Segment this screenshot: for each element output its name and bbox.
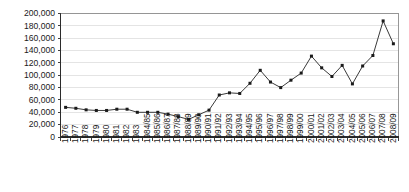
x-tick-label: 2000/01: [307, 113, 316, 143]
data-point-marker: [361, 64, 364, 67]
data-point-marker: [382, 19, 385, 22]
x-axis-group: 197619771978197919801981198219831984/851…: [61, 113, 399, 143]
data-point-marker: [228, 91, 231, 94]
data-point-marker: [167, 113, 170, 116]
x-tick-label: 1986/87: [163, 113, 172, 143]
data-point-marker: [95, 109, 98, 112]
x-tick-label: 1992/93: [225, 113, 234, 143]
data-point-marker: [136, 111, 139, 114]
data-point-marker: [64, 106, 67, 109]
x-tick-label: 2006/07: [368, 113, 377, 143]
x-tick-label: 1994/95: [245, 113, 254, 143]
x-tick-label: 1995/96: [255, 113, 264, 143]
x-tick-label: 1984/85: [143, 113, 152, 143]
data-point-marker: [330, 75, 333, 78]
x-tick-label: 1981: [112, 124, 121, 143]
data-point-marker: [300, 72, 303, 75]
data-point-marker: [105, 109, 108, 112]
x-tick-label: 1976: [61, 124, 70, 143]
y-tick-label: 80,000: [29, 82, 56, 92]
x-tick-label: 1983: [132, 124, 141, 143]
x-tick-label: 2004/05: [348, 113, 357, 143]
x-tick-label: 2001/02: [317, 113, 326, 143]
data-point-marker: [218, 94, 221, 97]
data-point-marker: [115, 108, 118, 111]
data-point-marker: [156, 111, 159, 114]
data-point-marker: [392, 42, 395, 45]
data-point-marker: [74, 107, 77, 110]
data-point-marker: [146, 111, 149, 114]
y-tick-label: 0: [50, 132, 55, 142]
data-point-marker: [208, 109, 211, 112]
y-tick-label: 40,000: [29, 107, 56, 117]
x-tick-label: 2005/06: [358, 113, 367, 143]
data-series-group: [64, 19, 395, 120]
x-tick-label: 1998/99: [286, 113, 295, 143]
y-tick-label: 200,000: [24, 8, 55, 18]
data-point-marker: [259, 69, 262, 72]
x-tick-label: 1989/90: [194, 113, 203, 143]
y-tick-label: 20,000: [29, 119, 56, 129]
gridlines-group: [61, 14, 399, 125]
x-tick-label: 1979: [92, 124, 101, 143]
data-point-marker: [187, 118, 190, 121]
x-tick-label: 1978: [81, 124, 90, 143]
data-point-marker: [341, 64, 344, 67]
x-tick-label: 1985/86: [153, 113, 162, 143]
line-chart: 200,000180,000160,000140,000120,000100,0…: [0, 0, 409, 192]
data-point-marker: [351, 82, 354, 85]
y-axis-group: 200,000180,000160,000140,000120,000100,0…: [24, 8, 61, 142]
x-tick-label: 1999/00: [296, 113, 305, 143]
x-tick-label: 1988/89: [184, 113, 193, 143]
x-tick-label: 1991/92: [214, 113, 223, 143]
data-point-marker: [279, 86, 282, 89]
data-point-marker: [310, 55, 313, 58]
data-point-marker: [269, 81, 272, 84]
y-tick-label: 60,000: [29, 95, 56, 105]
data-point-marker: [238, 92, 241, 95]
x-tick-label: 1997/98: [276, 113, 285, 143]
data-point-marker: [85, 108, 88, 111]
data-point-marker: [126, 108, 129, 111]
data-point-marker: [197, 113, 200, 116]
y-tick-labels: 200,000180,000160,000140,000120,000100,0…: [24, 8, 55, 142]
x-tick-label: 2008/09: [389, 113, 398, 143]
chart-canvas: 200,000180,000160,000140,000120,000100,0…: [0, 0, 409, 192]
y-tick-label: 180,000: [24, 21, 55, 31]
x-tick-label: 1977: [71, 124, 80, 143]
x-tick-label: 2003/04: [337, 113, 346, 143]
x-tick-labels: 197619771978197919801981198219831984/851…: [61, 113, 398, 143]
data-point-marker: [248, 82, 251, 85]
y-tick-label: 140,000: [24, 45, 55, 55]
series-line-path: [66, 21, 394, 119]
x-tick-label: 1980: [102, 124, 111, 143]
x-tick-label: 1996/97: [266, 113, 275, 143]
y-tick-label: 120,000: [24, 58, 55, 68]
x-tick-label: 2007/08: [378, 113, 387, 143]
data-point-marker: [320, 66, 323, 69]
y-tick-label: 160,000: [24, 33, 55, 43]
y-tick-label: 100,000: [24, 70, 55, 80]
x-tick-label: 1990/91: [204, 113, 213, 143]
data-point-marker: [289, 79, 292, 82]
x-tick-label: 1982: [122, 124, 131, 143]
data-point-marker: [177, 115, 180, 118]
x-tick-label: 2002/03: [327, 113, 336, 143]
x-tick-label: 1993/94: [235, 113, 244, 143]
data-point-marker: [371, 54, 374, 57]
